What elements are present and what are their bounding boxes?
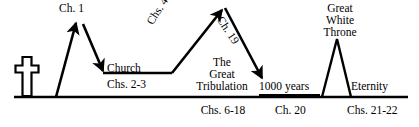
- label-great-white-throne-line2: White: [309, 14, 371, 26]
- label-ch-20: Ch. 20: [275, 104, 306, 116]
- label-chs-2-3: Chs. 2-3: [107, 78, 146, 90]
- revelation-timeline-diagram: Ch. 1 Church Chs. 2-3 Chs. 4-5 Ch. 19 Th…: [0, 0, 419, 127]
- label-great-tribulation-line3: Tribulation: [184, 80, 260, 92]
- cross-icon: [16, 57, 39, 96]
- label-church: Church: [107, 62, 141, 74]
- label-great-white-throne-line3: Throne: [309, 26, 371, 38]
- ch1-fall-arrow: [83, 24, 103, 71]
- label-eternity: Eternity: [351, 80, 388, 92]
- label-great-white-throne: Great White Throne: [309, 2, 371, 38]
- label-ch1: Ch. 1: [59, 2, 84, 14]
- label-great-tribulation-line1: The: [184, 56, 260, 68]
- label-chs-21-22: Chs. 21-22: [347, 104, 397, 116]
- label-great-tribulation-line2: Great: [184, 68, 260, 80]
- label-1000-years: 1000 years: [259, 80, 309, 92]
- label-great-tribulation: The Great Tribulation: [184, 56, 260, 92]
- label-chs-6-18: Chs. 6-18: [185, 104, 261, 116]
- great-white-throne-triangle: [322, 39, 351, 97]
- ch1-rise-arrow: [56, 23, 76, 97]
- label-great-white-throne-line1: Great: [309, 2, 371, 14]
